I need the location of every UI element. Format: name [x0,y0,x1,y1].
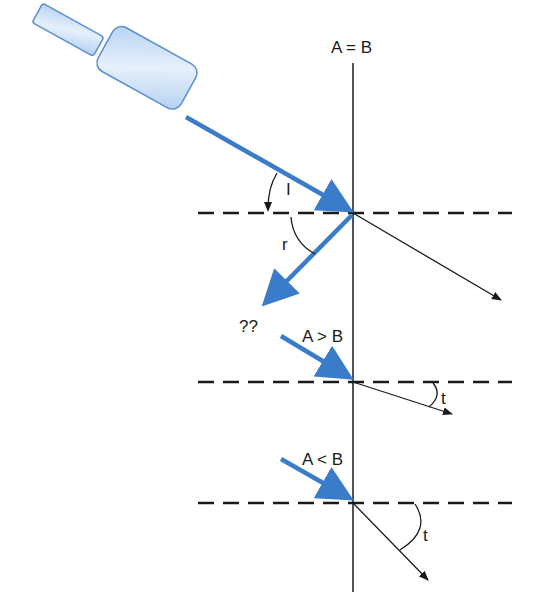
reflected-beam [268,215,352,300]
transmitted-ray-3 [353,503,428,580]
incident-beam [186,117,346,208]
angle-r-arc [291,217,315,254]
label-a-greater-b: A > B [302,328,343,345]
label-angle-t1: t [441,390,446,407]
transmitted-ray-1 [353,213,501,300]
label-angle-t2: t [423,527,428,544]
label-unknown: ?? [239,318,258,335]
label-a-less-b: A < B [302,451,343,468]
transmitted-ray-2 [353,382,452,414]
angle-t2-arc [400,504,421,550]
label-angle-r: r [282,236,288,253]
label-angle-i: I [286,181,291,198]
refraction-diagram [0,0,534,609]
transducer-icon [28,0,201,113]
angle-t1-arc [429,383,437,407]
label-a-equals-b: A = B [331,39,372,56]
